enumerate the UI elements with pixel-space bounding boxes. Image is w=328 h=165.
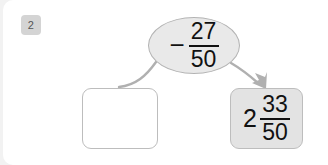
minus-sign: − xyxy=(169,32,184,58)
result-numerator: 33 xyxy=(261,93,289,117)
left-connector-curve xyxy=(119,62,156,87)
exercise-canvas: 2 − 27 50 2 33 50 xyxy=(0,0,328,165)
right-connector-curve xyxy=(231,63,258,83)
operand-oval: − 27 50 xyxy=(148,17,240,74)
result-whole-number: 2 xyxy=(243,106,257,131)
result-expression: 2 33 50 xyxy=(243,93,290,145)
operand-expression: − 27 50 xyxy=(169,20,218,72)
result-denominator: 50 xyxy=(261,121,289,145)
result-box: 2 33 50 xyxy=(230,88,303,149)
operand-denominator: 50 xyxy=(190,48,218,72)
answer-input-box[interactable] xyxy=(82,88,158,149)
operand-fraction: 27 50 xyxy=(189,20,219,72)
operand-numerator: 27 xyxy=(190,20,218,44)
result-fraction: 33 50 xyxy=(260,93,290,145)
